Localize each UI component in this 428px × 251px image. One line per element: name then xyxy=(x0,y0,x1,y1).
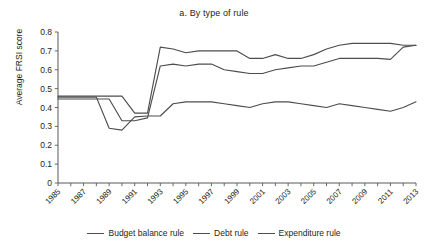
x-tick-label: 2007 xyxy=(325,187,344,206)
y-tick-label: 0.2 xyxy=(40,140,52,150)
y-tick-label: 0.8 xyxy=(40,27,52,37)
legend-item: Expenditure rule xyxy=(258,228,341,238)
y-axis: 00.10.20.30.40.50.60.70.8 xyxy=(40,27,58,188)
y-tick-label: 0.5 xyxy=(40,84,52,94)
series-line-1 xyxy=(58,45,416,121)
legend-line-icon xyxy=(258,233,275,234)
legend-line-icon xyxy=(193,233,210,234)
figure-container: a. By type of rule Average FRSI score 00… xyxy=(0,0,428,251)
x-tick-label: 2013 xyxy=(401,187,420,206)
x-axis: 1985198719891991199319951997199920012003… xyxy=(43,183,420,206)
y-tick-label: 0 xyxy=(47,178,52,188)
x-tick-label: 1995 xyxy=(171,187,190,206)
legend-label: Budget balance rule xyxy=(108,228,184,238)
y-tick-label: 0.4 xyxy=(40,103,52,113)
series-lines xyxy=(58,43,416,130)
series-line-2 xyxy=(58,97,416,130)
y-tick-label: 0.7 xyxy=(40,46,52,56)
x-tick-label: 2003 xyxy=(274,187,293,206)
chart-legend: Budget balance ruleDebt ruleExpenditure … xyxy=(0,228,428,238)
legend-label: Expenditure rule xyxy=(279,228,341,238)
x-tick-label: 1993 xyxy=(146,187,165,206)
x-tick-label: 1991 xyxy=(120,187,139,206)
x-tick-label: 1985 xyxy=(43,187,62,206)
x-tick-label: 1989 xyxy=(95,187,114,206)
legend-item: Debt rule xyxy=(193,228,249,238)
y-tick-label: 0.1 xyxy=(40,159,52,169)
x-tick-label: 2009 xyxy=(350,187,369,206)
x-tick-label: 1999 xyxy=(222,187,241,206)
x-tick-label: 2001 xyxy=(248,187,267,206)
y-tick-label: 0.6 xyxy=(40,65,52,75)
y-tick-label: 0.3 xyxy=(40,121,52,131)
legend-label: Debt rule xyxy=(214,228,249,238)
line-chart-plot: 00.10.20.30.40.50.60.70.8 19851987198919… xyxy=(0,0,428,251)
legend-line-icon xyxy=(87,233,104,234)
x-tick-label: 2011 xyxy=(376,187,395,206)
x-tick-label: 1997 xyxy=(197,187,216,206)
x-tick-label: 2005 xyxy=(299,187,318,206)
x-tick-label: 1987 xyxy=(69,187,88,206)
legend-item: Budget balance rule xyxy=(87,228,184,238)
